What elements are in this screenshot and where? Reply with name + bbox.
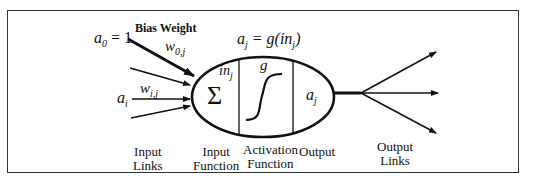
aj-symbol: a (237, 30, 245, 47)
caption-output-links: OutputLinks (377, 140, 413, 168)
a0-value: = 1 (107, 29, 132, 46)
w0j-subscript: 0,j (175, 46, 185, 57)
caption-output: Output (299, 145, 335, 159)
inj-label-subscript: j (230, 70, 233, 81)
input-arrow-1 (130, 68, 190, 85)
aj-out-subscript: j (314, 95, 317, 106)
bias-weight-label: Bias Weight (135, 21, 196, 35)
aj-output-label: aj (306, 86, 317, 106)
output-arrow-down (361, 93, 436, 133)
caption-line: Activation (243, 143, 298, 157)
inj-symbol: in (219, 63, 230, 78)
a0-symbol: a (94, 29, 102, 46)
wij-subscript: i,j (150, 88, 158, 99)
g-label: g (260, 57, 268, 74)
input-arrow-3 (131, 106, 190, 118)
wij-symbol: w (140, 80, 150, 96)
caption-line: Input (193, 145, 239, 159)
sigma-icon: Σ (207, 81, 222, 111)
inj-label: inj (219, 63, 233, 81)
aj-out-symbol: a (306, 86, 314, 103)
caption-input-function: InputFunction (193, 145, 239, 173)
ai-symbol: a (117, 89, 125, 106)
caption-input-links: InputLinks (133, 145, 163, 173)
caption-line: Function (193, 159, 239, 173)
wij-label: wi,j (140, 80, 158, 99)
sigmoid-curve-icon (246, 74, 282, 120)
activation-equation: aj = g(inj) (237, 30, 300, 50)
w0j-label: w0,j (165, 38, 185, 57)
w0j-symbol: w (165, 38, 175, 54)
caption-line: Links (133, 159, 163, 173)
caption-line: Function (243, 157, 298, 171)
ai-subscript: i (125, 98, 128, 109)
caption-activation-function: ActivationFunction (243, 143, 298, 171)
g-in-expression: = g(in (248, 30, 293, 47)
ai-label: ai (117, 89, 128, 109)
caption-line: Links (377, 154, 413, 168)
close-paren: ) (295, 30, 300, 47)
a0-equation: a0 = 1 (94, 29, 132, 49)
caption-line: Input (133, 145, 163, 159)
output-arrow-up (361, 52, 436, 93)
caption-line: Output (377, 140, 413, 154)
